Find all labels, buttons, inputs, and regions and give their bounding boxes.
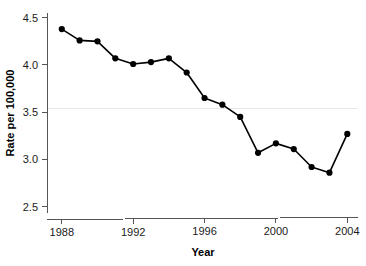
- data-point: [255, 150, 261, 156]
- x-axis-tick-labels: 19881992199620002004: [50, 225, 360, 239]
- y-tick-label: 3.5: [23, 106, 38, 118]
- x-axis-line: [48, 218, 359, 220]
- x-tick-label: 2004: [335, 225, 359, 237]
- x-axis-title: Year: [191, 246, 215, 258]
- y-tick-label: 2.5: [23, 201, 38, 213]
- data-point: [59, 26, 65, 32]
- data-series: [59, 26, 351, 176]
- series-markers: [59, 26, 351, 176]
- x-axis: 19881992199620002004: [48, 218, 360, 239]
- x-tick-label: 1988: [50, 226, 74, 238]
- y-tick-label: 4.5: [23, 12, 38, 24]
- data-point: [291, 146, 297, 152]
- data-point: [344, 131, 350, 137]
- x-axis-ticks: [62, 218, 348, 225]
- y-axis-ticks: [42, 18, 48, 207]
- x-tick-label: 1992: [121, 226, 145, 238]
- line-chart: 2.53.03.54.04.5 19881992199620002004 Yea…: [0, 0, 366, 266]
- data-point: [326, 170, 332, 176]
- data-point: [130, 61, 136, 67]
- data-point: [237, 114, 243, 120]
- data-point: [148, 59, 154, 65]
- y-tick-label: 3.0: [23, 153, 38, 165]
- data-point: [273, 140, 279, 146]
- data-point: [201, 95, 207, 101]
- data-point: [166, 55, 172, 61]
- data-point: [112, 55, 118, 61]
- data-point: [309, 164, 315, 170]
- x-tick-label: 2000: [264, 225, 288, 237]
- data-point: [94, 38, 100, 44]
- y-axis-title: Rate per 100,000: [4, 70, 16, 157]
- y-axis-tick-labels: 2.53.03.54.04.5: [23, 12, 38, 213]
- data-point: [77, 37, 83, 43]
- y-axis: 2.53.03.54.04.5: [23, 12, 48, 213]
- x-tick-label: 1996: [192, 225, 216, 237]
- chart-canvas: 2.53.03.54.04.5 19881992199620002004 Yea…: [0, 0, 366, 266]
- y-tick-label: 4.0: [23, 59, 38, 71]
- data-point: [219, 102, 225, 108]
- data-point: [184, 69, 190, 75]
